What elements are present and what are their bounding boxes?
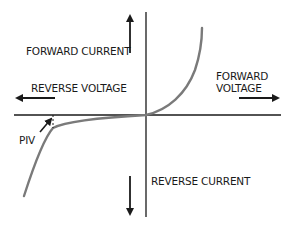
forward-voltage-label-line1: FORWARD (216, 70, 268, 82)
piv-label: PIV (19, 134, 35, 146)
forward-voltage-label-line2: VOLTAGE (216, 82, 262, 94)
forward-current-label: FORWARD CURRENT (26, 45, 130, 57)
reverse-voltage-label: REVERSE VOLTAGE (31, 82, 127, 94)
diode-iv-diagram (0, 0, 292, 231)
piv-pointer-arrow-icon (40, 119, 51, 132)
reverse-current-label: REVERSE CURRENT (151, 175, 250, 187)
